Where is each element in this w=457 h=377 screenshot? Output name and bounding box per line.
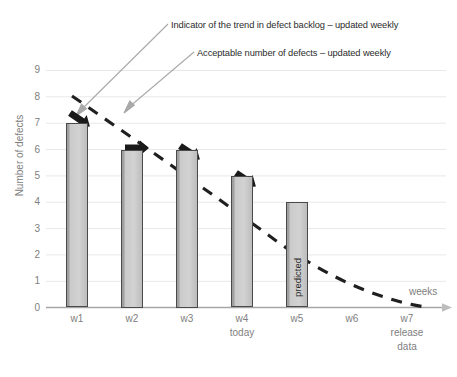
x-axis-arrow-label: weeks (409, 286, 437, 297)
x-tick-w1: w1 (54, 313, 100, 324)
bar-w4[interactable] (231, 176, 253, 308)
y-tick-1: 1 (26, 276, 40, 286)
y-tick-4: 4 (26, 197, 40, 207)
bar-w1[interactable] (66, 123, 88, 307)
x-tick-w4: w4 (219, 313, 265, 324)
x-note-release-line1: release (377, 327, 437, 339)
y-tick-3: 3 (26, 224, 40, 234)
x-note-release-line2: data (377, 341, 437, 353)
x-tick-w2: w2 (109, 313, 155, 324)
predicted-bar-label: predicted (292, 258, 303, 297)
x-tick-w7: w7 (384, 313, 430, 324)
x-tick-w3: w3 (164, 313, 210, 324)
y-tick-2: 2 (26, 250, 40, 260)
y-tick-8: 8 (26, 92, 40, 102)
y-axis-title: Number of defects (14, 101, 25, 211)
bar-w3[interactable] (176, 150, 198, 308)
y-tick-9: 9 (26, 65, 40, 75)
bar-w2[interactable] (121, 150, 143, 308)
x-tick-w6: w6 (329, 313, 375, 324)
y-tick-0: 0 (26, 303, 40, 313)
y-tick-5: 5 (26, 171, 40, 181)
annotation-acceptable-label: Acceptable number of defects – updated w… (197, 48, 391, 58)
annotation-trend-label: Indicator of the trend in defect backlog… (171, 20, 398, 30)
defect-backlog-chart: predicted 9 8 7 6 5 4 3 2 1 0 Number of … (0, 0, 457, 377)
x-note-today: today (212, 327, 272, 339)
y-tick-7: 7 (26, 118, 40, 128)
y-tick-6: 6 (26, 145, 40, 155)
x-tick-w5: w5 (274, 313, 320, 324)
